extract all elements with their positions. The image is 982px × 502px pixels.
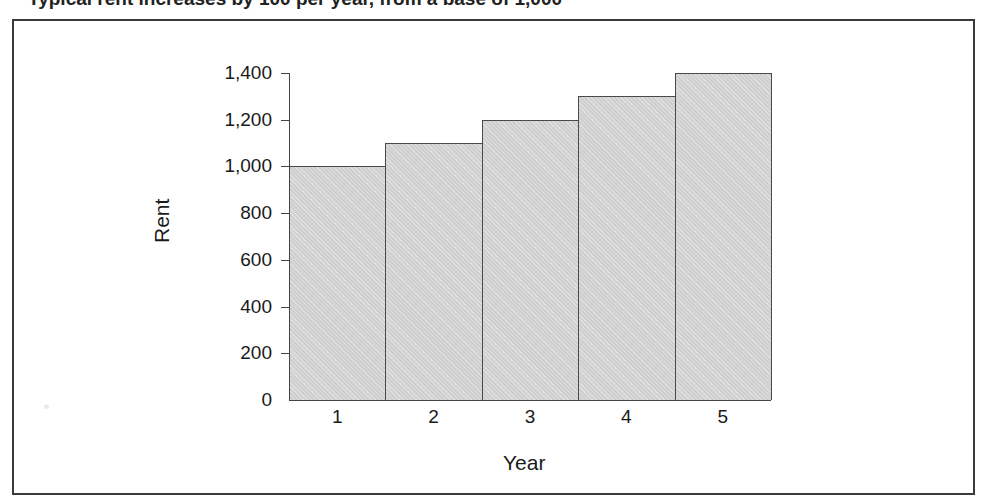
x-axis-line — [289, 400, 771, 401]
y-tick-label: 0 — [261, 390, 272, 410]
y-axis-title: Rent — [150, 199, 174, 243]
y-tick-mark — [281, 307, 289, 308]
y-tick-mark — [281, 73, 289, 74]
y-tick-label: 200 — [240, 343, 272, 363]
x-tick-label: 3 — [510, 406, 550, 428]
x-tick-label: 5 — [703, 406, 743, 428]
y-tick-label: 800 — [240, 203, 272, 223]
x-axis-title: Year — [503, 451, 545, 475]
y-tick-mark — [281, 260, 289, 261]
scan-artifact: ○ — [44, 402, 49, 411]
y-tick-label: 1,000 — [224, 156, 272, 176]
y-tick-mark — [281, 353, 289, 354]
y-axis-line — [289, 73, 290, 401]
bar-year-5 — [675, 73, 772, 400]
bar-year-3 — [482, 120, 579, 400]
bar-year-4 — [578, 96, 675, 400]
x-tick-label: 2 — [414, 406, 454, 428]
y-tick-mark — [281, 166, 289, 167]
chart-title-truncated: Typical rent increases by 100 per year, … — [28, 0, 562, 10]
y-tick-label: 600 — [240, 250, 272, 270]
y-tick-label: 400 — [240, 297, 272, 317]
y-tick-label: 1,400 — [224, 63, 272, 83]
bar-year-1 — [289, 166, 386, 400]
y-tick-mark — [281, 213, 289, 214]
x-tick-label: 1 — [317, 406, 357, 428]
plot-area — [289, 73, 771, 400]
x-tick-label: 4 — [606, 406, 646, 428]
y-tick-mark — [281, 120, 289, 121]
bar-year-2 — [385, 143, 482, 400]
y-tick-label: 1,200 — [224, 110, 272, 130]
